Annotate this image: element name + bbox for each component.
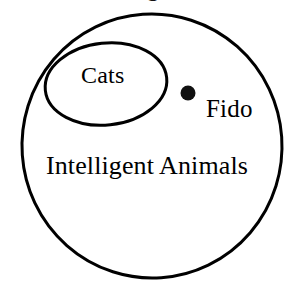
member-label-fido: Fido [206,96,253,121]
member-dot-fido [181,86,196,101]
outer-set-circle-intelligent-animals [13,5,291,286]
outer-set-label-intelligent-animals: Intelligent Animals [46,153,248,179]
clipped-header-text: g [118,0,188,5]
inner-set-label-cats: Cats [81,63,124,87]
diagram-canvas [0,0,293,287]
euler-diagram: Cats Fido Intelligent Animals g [0,0,293,287]
